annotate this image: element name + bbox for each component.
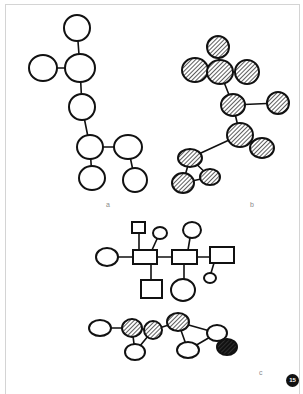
panel-label-b: b [250, 201, 254, 208]
open-circle-node [204, 273, 216, 283]
edge [211, 263, 214, 273]
square-node [132, 222, 145, 233]
open-circle-node [96, 248, 118, 266]
hatched-circle-node [122, 319, 142, 337]
diagram-b [172, 36, 289, 193]
open-circle-node [77, 135, 103, 159]
hatched-circle-node [144, 321, 162, 339]
open-circle-node [123, 168, 147, 192]
panel-label-c: c [259, 369, 263, 376]
diagram-c-top [96, 222, 234, 301]
open-circle-node [177, 342, 199, 358]
figure-number-badge: 15 [286, 374, 299, 387]
hatched-circle-node [250, 138, 274, 158]
hatched-circle-node [207, 36, 229, 58]
open-circle-node [171, 279, 195, 301]
square-node [210, 247, 234, 263]
square-node [133, 250, 157, 264]
square-node [141, 280, 162, 298]
open-circle-node [69, 94, 95, 120]
diagram-c-bottom [89, 313, 237, 360]
hatched-circle-node [267, 92, 289, 114]
hatched-circle-node [227, 123, 253, 147]
edge [188, 238, 190, 250]
dark-circle-node [217, 339, 237, 355]
open-circle-node [64, 15, 90, 41]
diagram-a [29, 15, 147, 192]
hatched-circle-node [200, 169, 220, 185]
hatched-circle-node [182, 58, 208, 82]
hatched-circle-node [167, 313, 189, 331]
hatched-circle-node [178, 149, 202, 167]
hatched-circle-node [207, 60, 233, 84]
open-circle-node [125, 344, 145, 360]
open-circle-node [114, 135, 142, 159]
open-circle-node [29, 55, 57, 81]
open-circle-node [153, 227, 167, 239]
square-node [172, 250, 197, 264]
open-circle-node [65, 54, 95, 82]
open-circle-node [89, 320, 111, 336]
hatched-circle-node [235, 60, 259, 84]
open-circle-node [183, 222, 201, 238]
hatched-circle-node [172, 173, 194, 193]
panel-label-a: a [106, 201, 110, 208]
edge [152, 239, 157, 250]
open-circle-node [79, 166, 105, 190]
hatched-circle-node [221, 94, 245, 116]
